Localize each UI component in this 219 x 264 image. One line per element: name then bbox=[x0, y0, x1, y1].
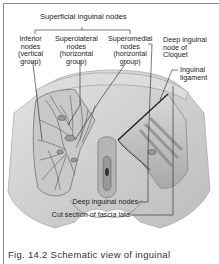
label-deep-node-cloquet: Deep inguinal node of Cloquet bbox=[163, 36, 207, 59]
superficial-inguinal-nodes-title: Superficial inguinal nodes bbox=[40, 12, 127, 21]
label-line: group) bbox=[18, 58, 43, 66]
label-line: group) bbox=[55, 58, 98, 66]
label-line: Cloquet bbox=[163, 51, 207, 59]
label-line: ligament bbox=[180, 74, 207, 82]
figure-caption: Fig. 14.2 Schematic view of inguinal bbox=[8, 249, 170, 260]
label-line: group) bbox=[108, 58, 152, 66]
label-superomedial-nodes: Superomedial nodes (horizontal group) bbox=[108, 35, 152, 65]
label-inguinal-ligament: Inguinal ligament bbox=[180, 66, 207, 81]
label-superolateral-nodes: Superolateral nodes (horizontal group) bbox=[55, 35, 98, 65]
label-fascia-lata: Cut section of fascia lata bbox=[40, 211, 130, 219]
label-inferior-nodes: Inferior nodes (vertical group) bbox=[18, 35, 43, 65]
label-deep-inguinal-nodes: Deep inguinal nodes bbox=[60, 198, 138, 206]
